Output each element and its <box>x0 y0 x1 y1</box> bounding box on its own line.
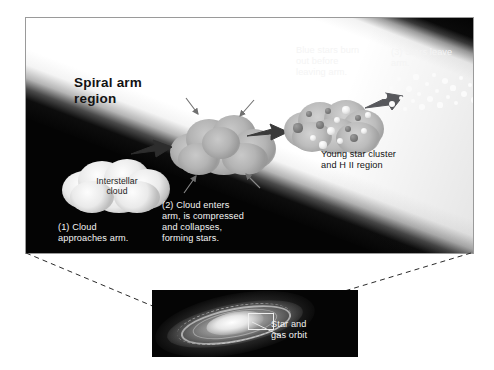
label-step-1: (1) Cloud approaches arm. <box>58 222 128 244</box>
dispersed-star <box>389 86 393 90</box>
cluster-star <box>334 117 340 123</box>
dispersed-star <box>427 96 433 102</box>
dispersed-star <box>381 93 386 98</box>
dispersed-star <box>461 91 467 97</box>
dispersed-star <box>459 76 464 81</box>
dispersed-star <box>425 82 429 86</box>
dispersed-star <box>432 73 437 78</box>
dispersed-star <box>406 86 412 92</box>
galaxy-inset-panel: Star and gas orbit <box>152 290 358 357</box>
dispersed-star <box>454 101 458 105</box>
dispersed-star <box>413 74 418 79</box>
dispersed-star <box>435 89 439 93</box>
main-diagram-panel: Spiral arm region Interstellar cloud (1)… <box>25 17 474 254</box>
dispersed-star <box>442 78 448 84</box>
dispersed-star <box>411 99 415 103</box>
main-panel-inner: Spiral arm region Interstellar cloud (1)… <box>26 18 473 253</box>
dispersed-star <box>471 97 473 102</box>
label-blue-stars-burn-out: Blue stars burn out before leaving arm. <box>296 45 359 78</box>
cluster-star <box>310 135 316 141</box>
dispersed-stars-graphic <box>378 70 473 116</box>
label-interstellar-cloud: Interstellar cloud <box>75 176 159 196</box>
compression-arrows <box>162 96 290 196</box>
dispersed-star <box>419 104 425 110</box>
cluster-star <box>342 106 349 113</box>
dispersed-star <box>468 83 472 87</box>
dispersed-star <box>403 107 407 111</box>
dispersed-star <box>450 85 455 90</box>
label-young-star-cluster: Young star cluster and H II region <box>321 149 396 171</box>
label-star-and-gas-orbit: Star and gas orbit <box>271 319 307 341</box>
cluster-star <box>365 112 370 117</box>
page-title: Spiral arm region <box>74 75 142 108</box>
dispersed-star <box>389 101 395 107</box>
label-step-2: (2) Cloud enters arm, is compressed and … <box>162 200 244 243</box>
figure-root: Spiral arm region Interstellar cloud (1)… <box>0 0 494 370</box>
label-step-3: (3) Stars leave arm. <box>391 47 473 69</box>
dispersed-star <box>446 95 450 99</box>
motion-arrow-1 <box>130 138 174 164</box>
dispersed-star <box>399 96 403 100</box>
cluster-star <box>319 141 326 148</box>
dispersed-star <box>397 77 402 82</box>
cluster-star <box>316 121 324 129</box>
dispersed-star <box>437 102 442 107</box>
dispersed-star <box>417 92 421 96</box>
cluster-star <box>350 134 358 142</box>
cluster-star <box>293 123 302 132</box>
cluster-star <box>345 126 351 132</box>
